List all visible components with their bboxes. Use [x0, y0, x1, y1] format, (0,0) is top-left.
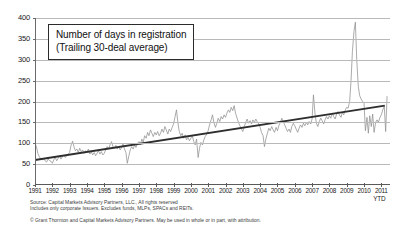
y-tick-label-300: 300	[2, 56, 30, 64]
y-tick-label-350: 350	[2, 35, 30, 43]
x-axis-line	[35, 184, 390, 185]
y-tick-label-200: 200	[2, 98, 30, 106]
y-tick-mark-250	[33, 81, 36, 82]
x-tick-mark-2006	[295, 183, 296, 187]
y-tick-label-250: 250	[2, 77, 30, 85]
copyright-note: © Grant Thornton and Capital Markets Adv…	[30, 218, 261, 224]
x-tick-mark-1997	[139, 183, 140, 187]
x-tick-mark-2007	[312, 183, 313, 187]
y-axis-labels: 050100150200250300350400	[0, 0, 33, 237]
y-tick-label-400: 400	[2, 14, 30, 22]
x-tick-mark-2001	[208, 183, 209, 187]
chart-figure: 050100150200250300350400 199119921993199…	[0, 0, 403, 237]
x-tick-mark-2002	[226, 183, 227, 187]
x-tick-mark-1993	[70, 183, 71, 187]
y-tick-mark-400	[33, 18, 36, 19]
gridline-100	[35, 143, 390, 144]
x-tick-mark-2011	[381, 183, 382, 187]
gridline-200	[35, 102, 390, 103]
x-axis-labels: 1991199219931994199519961997199819992000…	[35, 187, 390, 201]
x-tick-mark-1991	[35, 183, 36, 187]
y-tick-label-150: 150	[2, 118, 30, 126]
gridline-150	[35, 122, 390, 123]
y-tick-label-50: 50	[2, 160, 30, 168]
x-tick-mark-2005	[277, 183, 278, 187]
chart-title-line-1: Number of days in registration	[56, 29, 186, 42]
x-tick-mark-2004	[260, 183, 261, 187]
chart-title-line-2: (Trailing 30-deal average)	[56, 42, 186, 55]
gridline-50	[35, 164, 390, 165]
source-line-2: Includes only corporate Issuers. Exclude…	[30, 206, 194, 212]
x-tick-label-2011: 2011	[368, 187, 394, 195]
x-tick-mark-2003	[243, 183, 244, 187]
y-tick-mark-100	[33, 143, 36, 144]
x-tick-mark-1998	[156, 183, 157, 187]
y-tick-mark-200	[33, 102, 36, 103]
x-tick-mark-2009	[347, 183, 348, 187]
x-tick-mark-2008	[329, 183, 330, 187]
y-tick-mark-350	[33, 39, 36, 40]
trend-line	[35, 106, 385, 160]
x-tick-mark-1999	[174, 183, 175, 187]
y-tick-mark-50	[33, 164, 36, 165]
y-tick-mark-300	[33, 60, 36, 61]
ytd-annotation: YTD	[373, 195, 385, 203]
y-tick-mark-150	[33, 122, 36, 123]
gridline-400	[35, 18, 390, 19]
source-note: Source: Capital Markets Advisory Partner…	[30, 200, 194, 213]
x-tick-mark-1994	[87, 183, 88, 187]
x-tick-mark-1996	[122, 183, 123, 187]
x-tick-mark-1995	[104, 183, 105, 187]
x-tick-mark-2010	[364, 183, 365, 187]
chart-title-box: Number of days in registration (Trailing…	[48, 24, 194, 60]
y-tick-label-100: 100	[2, 139, 30, 147]
gridline-250	[35, 81, 390, 82]
x-tick-mark-2000	[191, 183, 192, 187]
x-tick-mark-1992	[52, 183, 53, 187]
